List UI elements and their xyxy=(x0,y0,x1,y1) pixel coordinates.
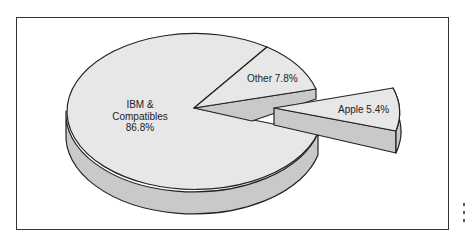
pie-chart: IBM & Compatibles 86.8% Other 7.8% Apple… xyxy=(0,0,466,246)
label-ibm-line1: IBM & xyxy=(126,99,154,110)
label-other: Other 7.8% xyxy=(247,73,298,84)
label-ibm-value: 86.8% xyxy=(126,122,154,133)
margin-mark xyxy=(463,203,465,206)
margin-mark xyxy=(463,211,465,214)
label-apple: Apple 5.4% xyxy=(338,104,389,115)
margin-mark xyxy=(463,219,465,222)
label-ibm-line2: Compatibles xyxy=(112,111,168,122)
